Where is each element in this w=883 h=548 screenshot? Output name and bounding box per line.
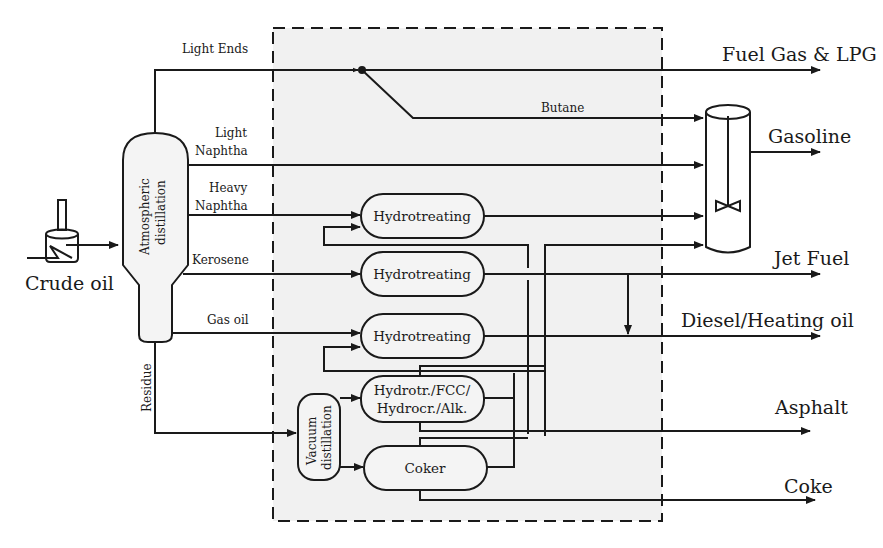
hydrotreating-1-label: Hydrotreating — [373, 208, 471, 224]
heavy-naphtha-label-1: Heavy — [209, 181, 248, 195]
conversion-unit-label-2: Hydrocr./Alk. — [377, 400, 468, 416]
coker-label: Coker — [404, 460, 446, 476]
butane-label: Butane — [541, 101, 584, 115]
light-ends-label: Light Ends — [182, 42, 248, 56]
refinery-flow-diagram: Crude oil Atmospheric distillation Light… — [0, 0, 883, 548]
product-fuel-gas-lpg: Fuel Gas & LPG — [722, 43, 877, 65]
kerosene-label: Kerosene — [192, 253, 249, 267]
light-naphtha-label-1: Light — [215, 126, 247, 140]
residue-label: Residue — [140, 363, 154, 412]
product-diesel-heating-oil: Diesel/Heating oil — [681, 309, 854, 331]
product-gasoline: Gasoline — [768, 125, 851, 147]
product-asphalt: Asphalt — [774, 396, 848, 418]
atmospheric-column-label-2: distillation — [154, 180, 168, 245]
conversion-unit-label-1: Hydrotr./FCC/ — [374, 382, 471, 398]
light-naphtha-label-2: Naphtha — [195, 144, 248, 158]
hydrotreating-3-label: Hydrotreating — [373, 328, 471, 344]
crude-oil-label: Crude oil — [25, 272, 114, 294]
gas-oil-label: Gas oil — [207, 313, 249, 327]
atmospheric-column-label: Atmospheric — [138, 178, 152, 256]
product-coke: Coke — [784, 475, 833, 497]
vacuum-column-label-1: Vacuum — [305, 416, 319, 466]
product-jet-fuel: Jet Fuel — [772, 247, 849, 269]
furnace-heater-icon — [27, 200, 118, 262]
vacuum-column-label-2: distillation — [320, 405, 334, 470]
hydrotreating-2-label: Hydrotreating — [373, 266, 471, 282]
mixing-tank-icon — [706, 105, 750, 253]
heavy-naphtha-label-2: Naphtha — [195, 199, 248, 213]
